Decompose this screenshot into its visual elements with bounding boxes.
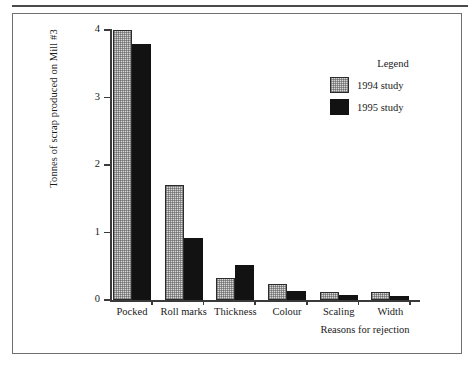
- y-axis-title: Tonnes of scrap produced on Mill #3: [48, 4, 59, 214]
- y-tick-label: 1: [74, 227, 100, 237]
- x-tick-mark: [203, 300, 205, 305]
- x-tick-mark: [358, 300, 360, 305]
- y-tick-mark: [104, 164, 110, 166]
- x-axis-line: [110, 300, 420, 302]
- bar-scaling-1994: [320, 292, 339, 300]
- bar-width-1995: [390, 296, 409, 300]
- bar-pocked-1994: [113, 30, 132, 300]
- y-axis-line: [110, 29, 112, 301]
- y-tick-label: 0: [74, 294, 100, 304]
- x-axis-title: Reasons for rejection: [300, 324, 430, 335]
- legend-label-1994: 1994 study: [357, 80, 403, 91]
- x-tick-mark: [409, 300, 411, 305]
- figure-page: 01234 PockedRoll marksThicknessColourSca…: [0, 0, 473, 367]
- legend-entry-1994: 1994 study: [330, 77, 442, 93]
- legend-title: Legend: [344, 58, 442, 69]
- legend-entry-1995: 1995 study: [330, 99, 442, 115]
- y-tick-label: 3: [74, 92, 100, 102]
- y-tick-mark: [104, 97, 110, 99]
- chart-legend: Legend 1994 study 1995 study: [330, 58, 442, 121]
- bar-thickness-1994: [216, 278, 235, 300]
- y-tick-label: 4: [74, 24, 100, 34]
- bar-chart-plot-area: 01234 PockedRoll marksThicknessColourSca…: [0, 0, 473, 367]
- bar-width-1994: [371, 292, 390, 300]
- bar-scaling-1995: [339, 295, 358, 300]
- legend-label-1995: 1995 study: [357, 102, 403, 113]
- y-tick-mark: [104, 29, 110, 31]
- legend-swatch-1994-icon: [330, 77, 349, 93]
- x-tick-mark: [254, 300, 256, 305]
- x-tick-mark: [306, 300, 308, 305]
- bar-colour-1994: [268, 284, 287, 300]
- bar-roll-marks-1994: [165, 185, 184, 300]
- x-tick-label-width: Width: [350, 306, 430, 318]
- y-tick-mark: [104, 299, 110, 301]
- y-tick-mark: [104, 232, 110, 234]
- bar-pocked-1995: [132, 44, 151, 301]
- y-tick-label: 2: [74, 159, 100, 169]
- x-tick-mark: [151, 300, 153, 305]
- bar-thickness-1995: [235, 265, 254, 300]
- bar-roll-marks-1995: [184, 238, 203, 300]
- legend-swatch-1995-icon: [330, 99, 349, 115]
- bar-colour-1995: [287, 291, 306, 300]
